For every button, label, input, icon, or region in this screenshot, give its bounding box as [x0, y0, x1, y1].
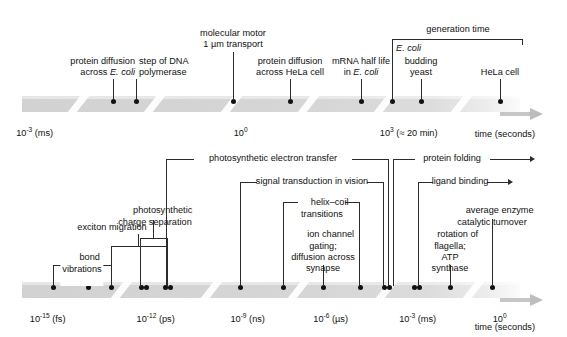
- label-line: gating;: [309, 241, 337, 251]
- leader-line: [136, 79, 137, 100]
- tick-mantissa: 10: [16, 128, 26, 138]
- label-ecoli-generation: E. coli: [396, 43, 421, 54]
- tick-mantissa: 10: [313, 314, 323, 324]
- axis-bar-highlight: [22, 96, 520, 99]
- leader-line: [113, 79, 114, 100]
- label-line-prefix: across: [80, 67, 110, 77]
- label-species-name: E. coli: [353, 67, 378, 77]
- tick-exponent: -15: [40, 312, 50, 319]
- label-protein-diffusion-ecoli: protein diffusionacross E. coli: [70, 56, 135, 79]
- leader-line: [111, 265, 112, 286]
- tick-suffix: (≈ 20 min): [394, 128, 438, 138]
- axis-tick-label: 10-9 (ns): [215, 304, 265, 334]
- label-line: ATP: [441, 252, 458, 262]
- label-line-prefix: in: [344, 67, 354, 77]
- tick-mantissa: 10: [30, 314, 40, 324]
- axis-tick-label: 10-3 (ms): [384, 304, 436, 334]
- ligand-binding-connector-right: [487, 182, 510, 183]
- label-line: budding: [405, 56, 438, 66]
- label-mrna-half-life: mRNA half lifein E. coli: [332, 56, 390, 79]
- protein-folding-arrowhead: [530, 156, 535, 162]
- label-protein-folding: protein folding: [423, 153, 481, 164]
- tick-mantissa: 10: [234, 128, 244, 138]
- timeline-dot: [168, 285, 173, 290]
- label-line: average enzyme: [466, 205, 534, 215]
- label-species-name: E. coli: [110, 67, 135, 77]
- upper-axis-title: time (seconds): [475, 129, 535, 139]
- axis-tick-label: 10-12 (ps): [121, 304, 174, 334]
- tick-suffix: (fs): [50, 314, 66, 324]
- ligand-binding-arrowhead: [508, 179, 513, 185]
- upper-timeline-panel: generation time protein diffusionacross …: [0, 0, 567, 140]
- leader-line: [290, 79, 291, 100]
- label-line: mRNA half life: [332, 56, 390, 66]
- label-line: step of DNA: [139, 56, 189, 66]
- label-line: protein diffusion: [70, 56, 135, 66]
- timescales-figure: generation time protein diffusionacross …: [0, 0, 567, 337]
- label-bond-vibrations: bondvibrations: [60, 241, 103, 286]
- label-line: ion channel: [307, 229, 354, 239]
- tick-suffix: (ps): [156, 314, 174, 324]
- upper-axis-arrow-line: [500, 112, 534, 116]
- leader-line: [500, 79, 501, 100]
- lower-timeline-panel: bondvibrations exciton migration photosy…: [0, 140, 567, 337]
- label-line: molecular motor: [200, 28, 266, 38]
- label-line: vibrations: [62, 264, 101, 274]
- leader-line: [233, 52, 234, 100]
- lower-axis-arrow-line: [500, 298, 534, 302]
- label-line: protein diffusion: [258, 56, 323, 66]
- leader-line: [361, 79, 362, 100]
- ligand-binding-drop: [418, 182, 419, 286]
- protein-folding-connector-left: [393, 159, 415, 160]
- tick-exponent: 0: [503, 312, 507, 319]
- tick-mantissa: 10: [230, 314, 240, 324]
- std-left-drop: [240, 182, 241, 286]
- label-line: yeast: [410, 67, 432, 77]
- photosynthetic-electron-transfer-connector-right: [352, 159, 389, 160]
- timeline-dot: [412, 285, 417, 290]
- label-line: across HeLa cell: [256, 67, 324, 77]
- axis-tick-label: 10-6 (µs): [298, 304, 348, 334]
- label-line: synapse: [306, 263, 340, 273]
- protein-folding-drop: [393, 159, 394, 286]
- tick-mantissa: 10: [399, 314, 409, 324]
- tick-suffix: (ms): [32, 128, 53, 138]
- label-line: flagella;: [434, 241, 466, 251]
- photosynthetic-charge-separation-bracket: [140, 238, 168, 287]
- label-budding-yeast: buddingyeast: [405, 56, 438, 79]
- label-hela-cell: HeLa cell: [481, 67, 519, 78]
- pet-right-drop: [388, 159, 389, 286]
- generation-time-bracket-top: [392, 39, 523, 40]
- label-line: charge separation: [118, 217, 192, 227]
- generation-time-bracket-right-tick: [522, 39, 523, 45]
- lower-axis-arrowhead: [530, 294, 543, 306]
- tick-suffix: (ms): [415, 314, 436, 324]
- tick-suffix: (µs): [329, 314, 348, 324]
- leader-line: [53, 265, 54, 286]
- std-right-drop: [383, 182, 384, 286]
- tick-mantissa: 10: [380, 128, 390, 138]
- label-ion-channel-gating: ion channelgating;diffusion acrosssynaps…: [291, 218, 355, 286]
- label-step-of-dna-polymerase: step of DNApolymerase: [139, 56, 189, 79]
- generation-time-label: generation time: [426, 24, 489, 35]
- label-photosynthetic-electron-transfer: photosynthetic electron transfer: [209, 153, 337, 164]
- label-ligand-binding: ligand binding: [432, 176, 489, 187]
- photosynthetic-electron-transfer-connector-left: [166, 159, 194, 160]
- label-line: photosynthetic: [133, 205, 192, 215]
- tick-exponent: 0: [244, 126, 248, 133]
- pet-left-drop: [166, 159, 167, 286]
- tick-exponent: -12: [147, 312, 157, 319]
- signal-transduction-connector-left: [240, 182, 257, 183]
- helix-left-drop: [283, 202, 284, 286]
- axis-tick-label: 10-15 (fs): [15, 304, 66, 334]
- tick-suffix: (ns): [247, 314, 265, 324]
- exciton-bracket-left-drop: [111, 246, 112, 265]
- label-average-enzyme-catalytic-turnover: average enzymecatalytic turnover: [450, 194, 533, 239]
- label-line: diffusion across: [291, 252, 355, 262]
- label-molecular-motor: molecular motor1 µm transport: [200, 28, 266, 51]
- leader-line: [421, 79, 422, 100]
- upper-axis-arrowhead: [530, 108, 543, 120]
- generation-time-bracket-left-tick: [392, 39, 393, 45]
- label-line: helix–coil: [311, 197, 349, 207]
- label-line: 1 µm transport: [203, 39, 262, 49]
